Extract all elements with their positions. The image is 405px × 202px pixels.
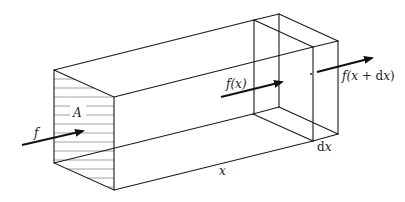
slice-element (253, 14, 338, 141)
cross-section-hatching (54, 79, 114, 187)
label-increment-dx: dx (317, 140, 332, 154)
flux-prism-diagram: A f f(x) f(x + dx) x dx (0, 0, 405, 202)
label-input-flux-f: f (33, 126, 41, 140)
label-area-a: A (72, 106, 82, 120)
label-position-x: x (219, 164, 226, 178)
flux-out-origin-dot (310, 73, 312, 75)
input-flux-arrow (22, 131, 83, 145)
label-flux-at-x: f(x) (225, 77, 247, 91)
prism-edges (54, 20, 313, 190)
label-flux-at-x-dx: f(x + dx) (341, 69, 395, 83)
